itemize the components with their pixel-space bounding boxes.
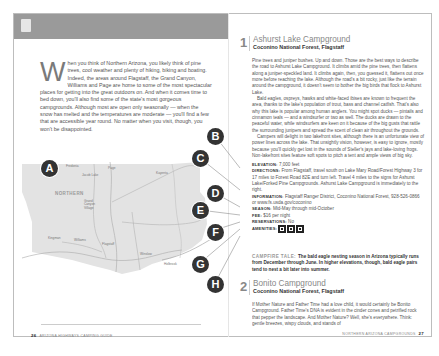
- map-label-fredonia: Fredonia: [66, 164, 79, 168]
- map-label-grand-canyon-village: Grand Canyon Village: [84, 200, 104, 210]
- map-marker-a[interactable]: A: [41, 160, 58, 177]
- map-label-holbrook: Holbrook: [164, 262, 177, 266]
- dropcap: W: [40, 61, 64, 83]
- running-footer-left: ARIZONA HIGHWAYS CAMPING GUIDE: [39, 334, 112, 338]
- entry-divider: [249, 280, 250, 295]
- entry-1-body: Pine trees and juniper bushes. Up and do…: [252, 58, 424, 160]
- map-label-williams: Williams: [74, 238, 86, 242]
- map-marker-c[interactable]: C: [192, 150, 209, 167]
- map-marker-f[interactable]: F: [207, 224, 224, 241]
- intro-text: hen you think of Northern Arizona, you l…: [40, 60, 212, 132]
- campfire-tale-label: CAMPFIRE TALE:: [252, 254, 296, 259]
- map-label-kayenta: Kayenta: [156, 171, 168, 175]
- page-number-right: 27: [419, 331, 424, 336]
- folio-right: NORTHERN ARIZONA CAMPGROUNDS27: [342, 331, 424, 336]
- section-tab-icon: [21, 19, 31, 32]
- header-band: [14, 14, 230, 39]
- entry-2-body: If Mother Nature and Father Time had a l…: [252, 302, 424, 328]
- map-marker-d[interactable]: D: [207, 185, 224, 202]
- fact-directions: DIRECTIONS: From Flagstaff, travel south…: [252, 168, 424, 193]
- entry-1-facts: ELEVATION: 7,000 feet DIRECTIONS: From F…: [252, 162, 424, 233]
- entry-title: Ashurst Lake Campground: [253, 35, 350, 44]
- map-label-page: Page: [108, 166, 115, 170]
- drinking-water-icon: [296, 225, 304, 233]
- map-marker-g[interactable]: G: [192, 256, 209, 273]
- body-paragraph: Campers will delight in two lakefront si…: [252, 134, 424, 159]
- map-label-jacob-lake: Jacob Lake: [82, 173, 98, 177]
- body-paragraph: If Mother Nature and Father Time had a l…: [252, 302, 424, 327]
- body-paragraph: Bald eagles, ospreys, hawks and white-fa…: [252, 96, 424, 134]
- page-number-left: 26: [31, 333, 36, 338]
- map-region-label: NORTHERN: [55, 191, 84, 196]
- footer-rule: [41, 324, 201, 325]
- map-label-winslow: Winslow: [140, 252, 152, 256]
- map-marker-e[interactable]: E: [192, 202, 209, 219]
- body-paragraph: Pine trees and juniper bushes. Up and do…: [252, 58, 424, 96]
- map-marker-b[interactable]: B: [207, 128, 224, 145]
- entry-subtitle: Coconino National Forest, Flagstaff: [253, 288, 344, 294]
- region-map: NORTHERN Fredonia Jacob Lake Page Kayent…: [22, 162, 216, 277]
- restroom-icon: [278, 225, 286, 233]
- campfire-tale: CAMPFIRE TALE:The bald eagle nesting sea…: [252, 254, 424, 273]
- entry-subtitle: Coconino National Forest, Flagstaff: [253, 44, 344, 50]
- fact-information: INFORMATION: Flagstaff Ranger District, …: [252, 194, 424, 207]
- entry-number: 1: [240, 35, 248, 50]
- map-land-shape: [22, 162, 216, 277]
- map-label-kingman: Kingman: [48, 236, 61, 240]
- intro-paragraph: W hen you think of Northern Arizona, you…: [40, 60, 212, 133]
- amenity-icons: [278, 225, 305, 233]
- folio-left: 26ARIZONA HIGHWAYS CAMPING GUIDE: [31, 333, 113, 338]
- right-page: 1 Ashurst Lake Campground Coconino Natio…: [229, 13, 432, 337]
- entry-divider: [249, 36, 250, 51]
- map-label-flagstaff: Flagstaff: [102, 242, 114, 246]
- entry-title: Bonito Campground: [253, 279, 326, 288]
- entry-number: 2: [240, 279, 248, 294]
- running-footer-right: NORTHERN ARIZONA CAMPGROUNDS: [342, 332, 415, 336]
- picnic-table-icon: [287, 225, 295, 233]
- map-marker-h[interactable]: H: [207, 276, 224, 293]
- fact-amenities: AMENITIES:: [252, 225, 424, 233]
